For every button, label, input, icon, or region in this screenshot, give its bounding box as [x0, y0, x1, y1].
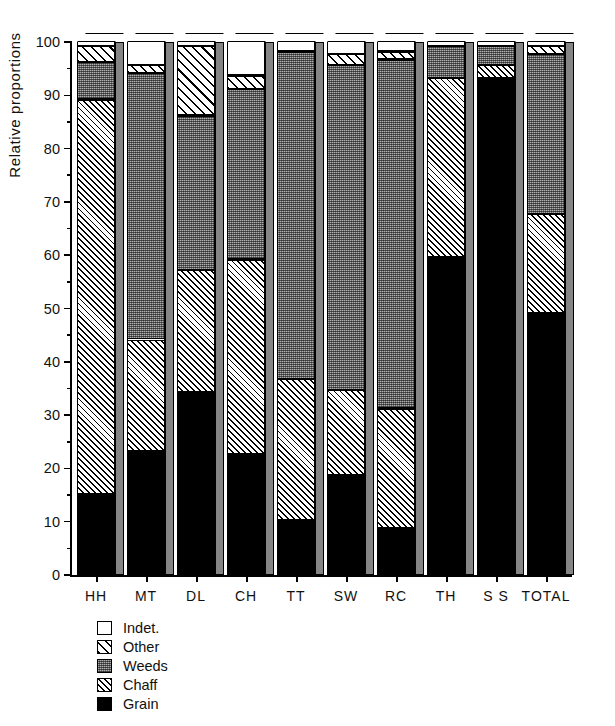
bar-side-face	[415, 42, 424, 575]
legend-swatch-other-icon	[97, 640, 112, 654]
bar-front-face	[427, 42, 465, 575]
y-tick-80	[64, 148, 71, 150]
segment-divider	[128, 64, 164, 65]
bar-side-face	[515, 42, 524, 575]
bar-segment-weeds	[278, 52, 314, 380]
segment-divider	[128, 450, 164, 451]
segment-divider	[528, 213, 564, 214]
x-tick-label-SW: SW	[334, 588, 359, 604]
bar-HH[interactable]	[77, 33, 115, 575]
legend-item-grain[interactable]: Grain	[97, 694, 168, 713]
bar-CH[interactable]	[227, 33, 265, 575]
x-tick-HH	[96, 575, 98, 582]
bar-TT[interactable]	[277, 33, 315, 575]
x-tick-DL	[196, 575, 198, 582]
segment-divider	[328, 53, 364, 54]
bar-side-face	[365, 42, 374, 575]
y-minor-tick-5	[67, 548, 71, 550]
bar-front-face	[177, 42, 215, 575]
segment-divider	[228, 258, 264, 259]
y-minor-tick-15	[67, 494, 71, 496]
segment-divider	[278, 378, 314, 379]
bar-segment-grain	[328, 475, 364, 574]
legend-label-indet: Indet.	[123, 620, 159, 636]
legend-item-indet[interactable]: Indet.	[97, 618, 168, 637]
legend-swatch-chaff-icon	[97, 678, 112, 692]
bar-SS[interactable]	[477, 33, 515, 575]
segment-divider	[478, 77, 514, 78]
segment-divider	[378, 407, 414, 408]
x-tick-label-MT: MT	[135, 588, 157, 604]
bar-segment-chaff	[378, 409, 414, 529]
bar-MT[interactable]	[127, 33, 165, 575]
segment-divider	[428, 256, 464, 257]
x-tick-label-TT: TT	[286, 588, 305, 604]
y-tick-30	[64, 414, 71, 416]
bar-segment-grain	[478, 78, 514, 574]
bar-segment-grain	[178, 393, 214, 574]
segment-divider	[278, 519, 314, 520]
y-tick-label-0: 0	[52, 568, 60, 583]
bar-front-face	[477, 42, 515, 575]
legend-label-chaff: Chaff	[123, 677, 157, 693]
x-tick-RC	[396, 575, 398, 582]
y-minor-tick-35	[67, 388, 71, 390]
segment-divider	[128, 72, 164, 73]
y-tick-label-40: 40	[44, 355, 60, 370]
bar-segment-grain	[128, 451, 164, 574]
legend-label-grain: Grain	[123, 696, 158, 712]
legend-label-other: Other	[123, 639, 159, 655]
legend-item-weeds[interactable]: Weeds	[97, 656, 168, 675]
y-axis-title: Relative proportions	[6, 0, 23, 215]
bar-RC[interactable]	[377, 33, 415, 575]
legend-item-other[interactable]: Other	[97, 637, 168, 656]
y-tick-label-20: 20	[44, 461, 60, 476]
bar-segment-weeds	[478, 46, 514, 65]
bar-front-face	[327, 42, 365, 575]
bar-segment-chaff	[428, 78, 464, 257]
y-minor-tick-85	[67, 121, 71, 123]
y-tick-60	[64, 254, 71, 256]
bar-side-face	[565, 42, 574, 575]
bar-segment-grain	[228, 454, 264, 574]
bar-segment-chaff	[178, 270, 214, 393]
bar-segment-weeds	[228, 89, 264, 260]
bar-DL[interactable]	[177, 33, 215, 575]
y-tick-20	[64, 468, 71, 470]
x-tick-TOTAL	[546, 575, 548, 582]
stacked-bar-chart-figure: Relative proportions 0102030405060708090…	[0, 0, 615, 726]
bar-segment-weeds	[528, 54, 564, 214]
y-minor-tick-25	[67, 441, 71, 443]
segment-divider	[328, 389, 364, 390]
y-tick-label-60: 60	[44, 248, 60, 263]
y-tick-label-100: 100	[36, 35, 60, 50]
x-tick-label-TH: TH	[436, 588, 457, 604]
bar-segment-chaff	[128, 340, 164, 452]
legend-item-chaff[interactable]: Chaff	[97, 675, 168, 694]
segment-divider	[178, 114, 214, 115]
bar-segment-chaff	[528, 214, 564, 313]
segment-divider	[178, 391, 214, 392]
segment-divider	[528, 312, 564, 313]
y-tick-label-80: 80	[44, 141, 60, 156]
legend-swatch-grain-icon	[97, 697, 112, 711]
y-minor-tick-55	[67, 281, 71, 283]
bar-front-face	[77, 42, 115, 575]
bar-segment-grain	[528, 313, 564, 574]
segment-divider	[78, 493, 114, 494]
chart-legend: Indet.OtherWeedsChaffGrain	[97, 618, 168, 713]
segment-divider	[78, 98, 114, 99]
bar-SW[interactable]	[327, 33, 365, 575]
y-minor-tick-95	[67, 68, 71, 70]
legend-swatch-indet-icon	[97, 621, 112, 635]
y-tick-50	[64, 308, 71, 310]
bar-front-face	[127, 42, 165, 575]
segment-divider	[78, 61, 114, 62]
x-tick-label-CH: CH	[235, 588, 257, 604]
y-tick-label-50: 50	[44, 301, 60, 316]
x-tick-MT	[146, 575, 148, 582]
bar-TH[interactable]	[427, 33, 465, 575]
bar-side-face	[115, 42, 124, 575]
y-tick-70	[64, 201, 71, 203]
bar-TOTAL[interactable]	[527, 33, 565, 575]
